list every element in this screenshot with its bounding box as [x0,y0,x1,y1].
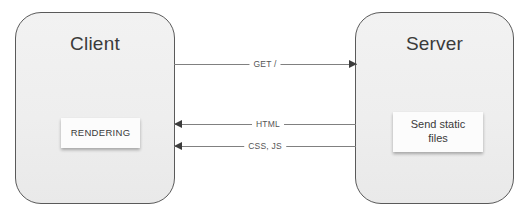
cssjs-response-label: CSS, JS [244,141,286,151]
server-node-title: Server [356,33,513,55]
client-node-title: Client [16,33,174,55]
html-response-label: HTML [252,119,284,129]
send-static-files-card-label: Send static files [411,118,465,146]
rendering-card: RENDERING [61,118,140,148]
get-request-label: GET / [249,59,280,69]
send-static-files-line-1: Send static [411,118,465,130]
server-node: Server [355,12,514,204]
rendering-card-label: RENDERING [71,127,131,139]
html-response-arrowhead-icon [174,120,182,128]
send-static-files-card: Send static files [393,112,483,152]
send-static-files-line-2: files [428,132,448,144]
diagram-canvas: Client RENDERING Server Send static file… [0,0,528,219]
cssjs-response-arrowhead-icon [174,142,182,150]
client-node: Client [15,12,175,204]
get-request-arrowhead-icon [349,60,357,68]
